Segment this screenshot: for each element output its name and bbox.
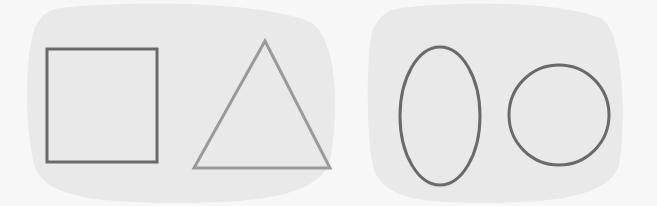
diagram-canvas xyxy=(0,0,657,206)
right-panel xyxy=(368,3,623,203)
left-panel xyxy=(27,4,335,203)
shapes-diagram xyxy=(0,0,657,206)
